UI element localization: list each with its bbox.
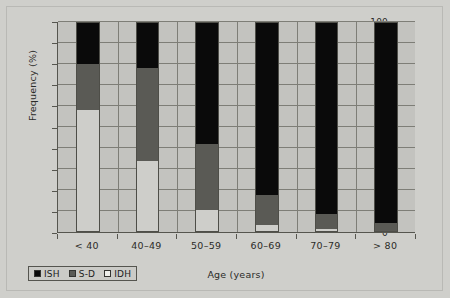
- bar-segment-sd[interactable]: [374, 223, 398, 232]
- category-divider: [297, 22, 298, 232]
- bar-stack[interactable]: [374, 22, 398, 232]
- x-axis-tick-mark: [117, 234, 118, 239]
- category-divider: [237, 22, 238, 232]
- x-axis-tick-mark: [296, 234, 297, 239]
- x-axis-tick-label: 40–49: [117, 240, 177, 251]
- bar-segment-sd[interactable]: [136, 68, 160, 160]
- bar-segment-sd[interactable]: [195, 144, 219, 210]
- bar-segment-idh[interactable]: [255, 225, 279, 232]
- black-square-icon: [34, 270, 41, 277]
- bar-segment-ish[interactable]: [76, 22, 100, 64]
- category-divider: [118, 22, 119, 232]
- x-axis-tick-label: 70–79: [296, 240, 356, 251]
- bar-segment-sd[interactable]: [315, 214, 339, 229]
- legend-item-sd[interactable]: S-D: [69, 269, 96, 279]
- bar-segment-idh[interactable]: [315, 229, 339, 232]
- bar-stack[interactable]: [195, 22, 219, 232]
- x-axis-tick-mark: [355, 234, 356, 239]
- legend-label: S-D: [79, 269, 96, 279]
- bar-stack[interactable]: [136, 22, 160, 232]
- bar-stack[interactable]: [315, 22, 339, 232]
- bar-segment-ish[interactable]: [195, 22, 219, 144]
- gray-square-icon: [69, 270, 76, 277]
- legend-label: ISH: [44, 269, 60, 279]
- bar-segment-idh[interactable]: [76, 110, 100, 232]
- y-axis-title: Frequency (%): [27, 26, 38, 146]
- bar-segment-idh[interactable]: [136, 161, 160, 232]
- bar-stack[interactable]: [255, 22, 279, 232]
- bar-stack[interactable]: [76, 22, 100, 232]
- x-axis-tick-label: < 40: [57, 240, 117, 251]
- bar-segment-sd[interactable]: [76, 64, 100, 110]
- x-axis-tick-mark: [57, 234, 58, 239]
- x-axis-tick-mark: [176, 234, 177, 239]
- bar-segment-sd[interactable]: [255, 195, 279, 224]
- bar-segment-ish[interactable]: [255, 22, 279, 195]
- category-divider: [356, 22, 357, 232]
- bar-segment-ish[interactable]: [136, 22, 160, 68]
- x-axis-tick-label: 50–59: [176, 240, 236, 251]
- legend-item-idh[interactable]: IDH: [104, 269, 131, 279]
- bar-segment-ish[interactable]: [374, 22, 398, 223]
- x-axis-tick-mark: [415, 234, 416, 239]
- figure-container: Frequency (%) 0102030405060708090100 < 4…: [0, 0, 450, 298]
- chart-legend: ISHS-DIDH: [28, 266, 137, 281]
- x-axis-tick-mark: [236, 234, 237, 239]
- x-axis-tick-label: > 80: [355, 240, 415, 251]
- category-divider: [177, 22, 178, 232]
- white-square-icon: [104, 270, 111, 277]
- x-axis-tick-label: 60–69: [236, 240, 296, 251]
- bar-segment-ish[interactable]: [315, 22, 339, 214]
- plot-area: [57, 22, 415, 233]
- legend-label: IDH: [114, 269, 131, 279]
- bar-segment-idh[interactable]: [195, 210, 219, 232]
- legend-item-ish[interactable]: ISH: [34, 269, 60, 279]
